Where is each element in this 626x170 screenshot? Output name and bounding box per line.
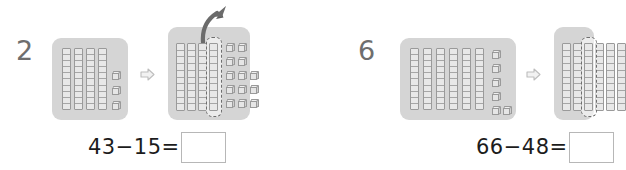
tens-rod (423, 48, 432, 110)
unit-cube (492, 50, 501, 59)
unit-cube (250, 85, 259, 94)
unit-cube (238, 85, 247, 94)
equation-2: 66−48= (476, 132, 614, 162)
unit-cube (250, 71, 259, 80)
curved-up-arrow-icon (196, 3, 238, 43)
answer-box-1[interactable] (181, 132, 226, 163)
unit-cube (250, 99, 259, 108)
item-number-1: 2 (16, 37, 33, 64)
tens-rod (176, 43, 185, 111)
unit-cube (226, 57, 235, 66)
equation-text-2: 66−48= (476, 137, 568, 158)
unit-cube (112, 86, 121, 95)
blocks-panel-after-2 (554, 27, 594, 120)
tens-rod (98, 48, 107, 110)
tens-rod (410, 48, 419, 110)
tens-rod (562, 43, 571, 111)
unit-cube (492, 64, 501, 73)
unit-cube (492, 92, 501, 101)
tens-rod (436, 48, 445, 110)
problem-1: 2 43−15= (0, 0, 290, 170)
unit-cube (226, 99, 235, 108)
item-number-2: 6 (358, 37, 375, 64)
blocks-panel-before-2 (400, 38, 516, 120)
right-arrow-icon (526, 67, 541, 82)
tens-rod (187, 43, 196, 111)
unit-cube (503, 106, 512, 115)
tens-rod (606, 43, 615, 111)
unit-cube (238, 99, 247, 108)
unit-cube (238, 43, 247, 52)
unit-cube (238, 71, 247, 80)
tens-rod (617, 43, 626, 111)
unit-cube (238, 57, 247, 66)
unit-cube (112, 101, 121, 110)
right-arrow-icon (140, 67, 155, 82)
blocks-panel-before-1 (52, 38, 128, 120)
tens-rod (209, 43, 218, 111)
equation-text-1: 43−15= (88, 137, 180, 158)
answer-box-2[interactable] (569, 132, 614, 163)
unit-cube (492, 106, 501, 115)
unit-cube (226, 43, 235, 52)
unit-cube (226, 71, 235, 80)
unit-cube (112, 71, 121, 80)
tens-rod (584, 43, 593, 111)
unit-cube (492, 78, 501, 87)
unit-cube (226, 85, 235, 94)
equation-1: 43−15= (88, 132, 226, 162)
tens-rod (475, 48, 484, 110)
tens-rod (62, 48, 71, 110)
tens-rod (462, 48, 471, 110)
tens-rod (86, 48, 95, 110)
tens-rod (449, 48, 458, 110)
tens-rod (74, 48, 83, 110)
problem-2: 6 66−48= (290, 0, 580, 170)
